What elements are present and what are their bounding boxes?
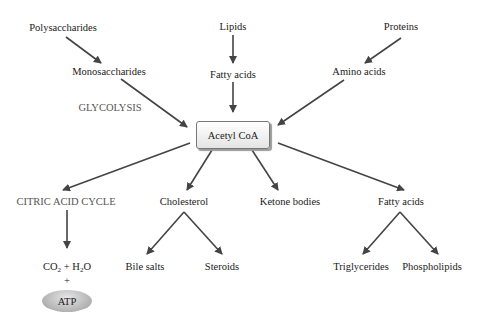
label-lipids: Lipids	[220, 21, 247, 33]
label-atp: ATP	[58, 296, 77, 307]
acetyl-coa-node: Acetyl CoA	[196, 121, 270, 149]
label-fatty-acids-input: Fatty acids	[210, 69, 256, 81]
label-triglycerides: Triglycerides	[333, 261, 389, 273]
label-amino-acids: Amino acids	[332, 66, 385, 78]
label-co2-h2o: CO2 + H2O	[43, 261, 91, 276]
metabolism-diagram: Polysaccharides Monosaccharides GLYCOLYS…	[0, 0, 482, 314]
label-phospholipids: Phospholipids	[402, 261, 462, 273]
label-glycolysis: GLYCOLYSIS	[78, 102, 141, 114]
label-ketone-bodies: Ketone bodies	[260, 196, 320, 208]
label-fatty-acids-output: Fatty acids	[378, 196, 424, 208]
label-acetyl-coa: Acetyl CoA	[208, 130, 258, 141]
atp-node: ATP	[42, 290, 92, 312]
label-cholesterol: Cholesterol	[160, 196, 208, 208]
label-polysaccharides: Polysaccharides	[29, 22, 97, 34]
label-proteins: Proteins	[384, 21, 418, 33]
label-monosaccharides: Monosaccharides	[72, 66, 145, 78]
label-steroids: Steroids	[205, 261, 239, 273]
label-bile-salts: Bile salts	[126, 261, 165, 273]
label-plus: +	[64, 275, 70, 287]
label-citric-acid-cycle: CITRIC ACID CYCLE	[16, 196, 115, 208]
